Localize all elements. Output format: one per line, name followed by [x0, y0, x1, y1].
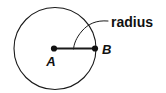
point-b-dot: [92, 45, 98, 51]
diagram-canvas: A B radius: [0, 0, 166, 93]
point-b-label: B: [102, 42, 111, 57]
radius-callout-label: radius: [111, 14, 153, 30]
point-a-label: A: [45, 54, 55, 69]
radius-diagram-figure: A B radius: [0, 0, 166, 93]
point-a-dot: [51, 45, 57, 51]
